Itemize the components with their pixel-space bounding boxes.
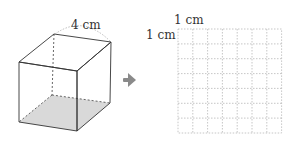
cube-bottom-face bbox=[19, 95, 110, 131]
cube-top-face bbox=[19, 34, 111, 71]
grid-column-label: 1 cm bbox=[174, 14, 204, 26]
cube-edge-label: 4 cm bbox=[71, 19, 101, 31]
grid-row-label: 1 cm bbox=[146, 29, 176, 41]
diagram-canvas bbox=[0, 0, 284, 141]
dotted-grid bbox=[178, 29, 282, 133]
arrow-right-icon bbox=[123, 73, 136, 87]
cube bbox=[19, 26, 111, 131]
